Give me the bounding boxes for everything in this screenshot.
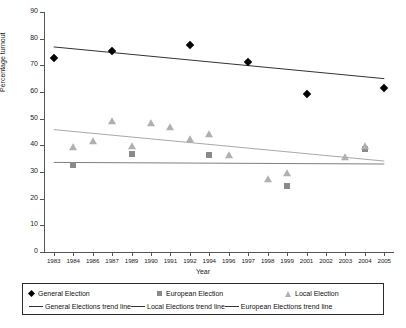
legend-item-trendline: European Elections trend line (225, 303, 332, 310)
legend-label: General Election (38, 290, 90, 297)
y-tick-label: 80 (30, 34, 38, 42)
x-tick-label: 1989 (125, 257, 138, 264)
x-tick-mark (209, 252, 210, 256)
chart-legend: General ElectionEuropean ElectionLocal E… (22, 283, 384, 315)
line-swatch-icon (29, 306, 43, 307)
y-axis-title: Percentage turnout (0, 32, 6, 92)
x-tick-label: 1990 (144, 257, 157, 264)
legend-label: European Election (166, 290, 223, 297)
data-point-triangle (186, 135, 194, 142)
y-tick-mark (40, 92, 44, 93)
trend-line (54, 130, 385, 161)
diamond-marker-icon (28, 290, 35, 297)
x-tick-mark (326, 252, 327, 256)
x-tick-mark (268, 252, 269, 256)
line-swatch-icon (131, 306, 145, 307)
x-tick-mark (170, 252, 171, 256)
x-tick-label: 1987 (105, 257, 118, 264)
data-point-triangle (89, 137, 97, 144)
x-tick-mark (112, 252, 113, 256)
y-tick-mark (40, 39, 44, 40)
x-tick-label: 1992 (183, 257, 196, 264)
data-point-triangle (108, 117, 116, 124)
x-tick-mark (384, 252, 385, 256)
x-tick-label: 2003 (339, 257, 352, 264)
legend-item-trendline: General Elections trend line (29, 303, 131, 310)
y-tick-mark (40, 12, 44, 13)
y-tick-label: 0 (34, 247, 38, 255)
trend-line (54, 47, 385, 79)
legend-item-marker: General Election (29, 290, 157, 297)
data-point-square (70, 162, 76, 168)
y-tick-mark (40, 225, 44, 226)
x-tick-mark (190, 252, 191, 256)
y-tick-label: 60 (30, 87, 38, 95)
x-tick-label: 1986 (86, 257, 99, 264)
x-tick-mark (93, 252, 94, 256)
x-tick-label: 2004 (358, 257, 371, 264)
plot-area (44, 12, 394, 252)
legend-label: European Elections trend line (241, 303, 332, 310)
data-point-square (284, 183, 290, 189)
y-tick-label: 70 (30, 60, 38, 68)
x-axis-line (44, 252, 394, 253)
x-tick-mark (345, 252, 346, 256)
x-tick-label: 2002 (319, 257, 332, 264)
legend-item-marker: Local Election (285, 290, 339, 297)
x-tick-mark (54, 252, 55, 256)
data-point-triangle (361, 142, 369, 149)
x-tick-label: 2001 (300, 257, 313, 264)
x-tick-label: 1997 (241, 257, 254, 264)
data-point-triangle (264, 175, 272, 182)
y-tick-mark (40, 119, 44, 120)
x-tick-mark (73, 252, 74, 256)
triangle-marker-icon (285, 291, 291, 297)
x-tick-mark (307, 252, 308, 256)
data-point-triangle (283, 169, 291, 176)
x-tick-mark (365, 252, 366, 256)
y-tick-label: 10 (30, 220, 38, 228)
x-axis-title: Year (0, 268, 406, 275)
y-tick-mark (40, 65, 44, 66)
x-tick-mark (151, 252, 152, 256)
x-tick-label: 1999 (280, 257, 293, 264)
x-tick-label: 1996 (222, 257, 235, 264)
x-tick-label: 1983 (47, 257, 60, 264)
x-tick-label: 2005 (378, 257, 391, 264)
data-point-square (206, 152, 212, 158)
x-tick-label: 1994 (203, 257, 216, 264)
y-tick-label: 90 (30, 7, 38, 15)
x-tick-label: 1984 (66, 257, 79, 264)
data-point-triangle (128, 143, 136, 150)
legend-item-marker: European Election (157, 290, 285, 297)
legend-label: Local Elections trend line (147, 303, 225, 310)
y-tick-mark (40, 252, 44, 253)
chart-container: Percentage turnout Year 0102030405060708… (0, 0, 406, 328)
data-point-square (129, 151, 135, 157)
line-swatch-icon (225, 306, 239, 307)
data-point-triangle (147, 119, 155, 126)
x-tick-mark (248, 252, 249, 256)
trend-line-layer (44, 12, 394, 252)
legend-row-markers: General ElectionEuropean ElectionLocal E… (29, 287, 377, 300)
legend-label: General Elections trend line (45, 303, 131, 310)
x-tick-mark (132, 252, 133, 256)
data-point-triangle (205, 131, 213, 138)
data-point-triangle (341, 153, 349, 160)
x-tick-label: 1998 (261, 257, 274, 264)
y-tick-label: 40 (30, 140, 38, 148)
y-tick-mark (40, 172, 44, 173)
y-tick-label: 50 (30, 114, 38, 122)
y-tick-mark (40, 145, 44, 146)
legend-label: Local Election (295, 290, 339, 297)
trend-line (54, 162, 385, 164)
y-tick-label: 20 (30, 194, 38, 202)
square-marker-icon (157, 291, 162, 296)
legend-row-trendlines: General Elections trend lineLocal Electi… (29, 300, 377, 313)
x-tick-label: 1991 (164, 257, 177, 264)
y-tick-label: 30 (30, 167, 38, 175)
x-tick-mark (287, 252, 288, 256)
legend-item-trendline: Local Elections trend line (131, 303, 225, 310)
data-point-triangle (225, 151, 233, 158)
data-point-triangle (69, 143, 77, 150)
